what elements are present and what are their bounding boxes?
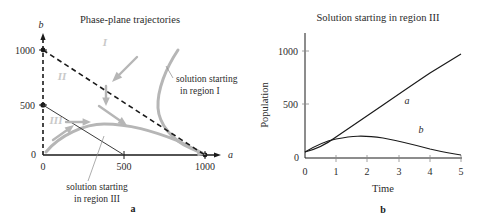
panel-b-curve-b — [305, 136, 461, 155]
panel-b-curve-a — [305, 54, 461, 152]
panel-b-title: Solution starting in region III — [316, 12, 440, 23]
panel-a-x-axis-arrowhead — [214, 152, 221, 157]
panel-b-xtick-label-1: 1 — [334, 166, 339, 177]
panel-a-ytick-label-500: 500 — [20, 100, 35, 111]
panel-a-callout-region-I-line2: in region I — [180, 86, 220, 96]
panel-a-y-axis-name: b — [39, 19, 44, 30]
panel-a-callout-region-III-line1: solution starting — [66, 182, 128, 192]
panel-b-ytick-label-500: 500 — [283, 99, 298, 110]
panel-a-xtick-label-0: 0 — [41, 161, 46, 172]
panel-a-callout-region-III-line2: in region III — [74, 194, 120, 204]
panel-b-group: Solution starting in region III 1000 500… — [259, 12, 464, 215]
panel-a-arrow-II-2 — [99, 106, 122, 122]
panel-a-y-axis-arrowhead — [40, 33, 45, 40]
panel-a-xtick-label-500: 500 — [117, 161, 132, 172]
panel-a-caption: a — [131, 203, 136, 214]
figure-svg: Phase-plane trajectories b a 1000 500 0 … — [0, 0, 484, 221]
panel-a-callout-leader-region-III — [88, 136, 104, 181]
panel-b-y-axis-label: Population — [259, 82, 270, 128]
panel-b-xtick-label-2: 2 — [365, 166, 370, 177]
panel-a-arrowhead-II-1 — [102, 97, 110, 106]
panel-a-callout-region-I-line1: solution starting — [176, 74, 238, 84]
panel-a-region-label-III: III — [49, 114, 64, 126]
panel-a-nullcline-solid — [43, 105, 124, 155]
panel-a-nullcline-dashed — [43, 50, 205, 155]
panel-b-ytick-label-1000: 1000 — [278, 46, 298, 57]
panel-a-group: Phase-plane trajectories b a 1000 500 0 … — [15, 14, 238, 214]
panel-a-title: Phase-plane trajectories — [80, 14, 180, 25]
panel-a-x-axis-name: a — [228, 149, 233, 160]
panel-a-region-label-II: II — [57, 70, 67, 82]
panel-b-xtick-label-4: 4 — [428, 166, 433, 177]
panel-a-trajectory-region-I — [158, 50, 202, 153]
panel-b-ytick-label-0: 0 — [294, 152, 299, 163]
panel-a-xtick-label-1000: 1000 — [195, 161, 215, 172]
panel-b-curve-label-a: a — [405, 95, 410, 106]
panel-a-ytick-label-1000: 1000 — [15, 45, 35, 56]
panel-b-caption: b — [380, 204, 386, 215]
panel-b-xtick-label-0: 0 — [303, 166, 308, 177]
panel-b-xtick-label-5: 5 — [459, 166, 464, 177]
panel-b-x-axis-label: Time — [372, 183, 394, 194]
panel-b-curve-label-b: b — [419, 124, 424, 135]
panel-a-ytick-label-0: 0 — [31, 149, 36, 160]
panel-b-xtick-label-3: 3 — [397, 166, 402, 177]
panel-a-region-label-I: I — [102, 36, 108, 48]
figure-root: Phase-plane trajectories b a 1000 500 0 … — [0, 0, 484, 221]
